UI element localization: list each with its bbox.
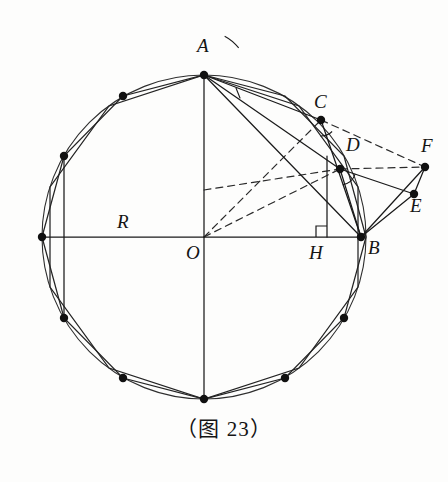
dashed-OF-extension (204, 169, 340, 190)
vertex-dot-vertex-top-A (200, 71, 208, 79)
point-label-C: C (314, 92, 327, 111)
point-label-H: H (309, 243, 323, 262)
vertex-dot-vertex-D (336, 165, 344, 173)
vertex-dot-vertex-left-W (38, 233, 46, 241)
dashed-DF (340, 167, 425, 169)
dashed-construction-lines (204, 120, 425, 237)
point-label-A: A (197, 36, 209, 55)
point-label-B: B (368, 238, 380, 257)
right-angle-marker (316, 226, 327, 237)
figure-caption: （图 23） (0, 412, 448, 442)
vertex-dot-vertex-upper-left-2 (60, 152, 68, 160)
segment-BE (361, 194, 414, 237)
vertex-dot-vertex-lower-right-2 (281, 374, 289, 382)
angle-tick-at-A (236, 88, 240, 98)
point-label-D: D (346, 135, 360, 154)
chord-AC (204, 75, 321, 120)
right-angle-at-H (316, 226, 327, 237)
point-label-E: E (410, 196, 422, 215)
vertex-dot-vertex-bottom-S (200, 395, 208, 403)
vertex-dot-vertex-upper-left-1 (119, 92, 127, 100)
point-label-O: O (186, 243, 200, 262)
vertex-dot-vertex-F (421, 163, 429, 171)
geometry-diagram (0, 0, 448, 482)
angle-arc-at-A (225, 36, 239, 48)
dashed-OD (204, 169, 340, 237)
vertex-dot-vertex-right-B (357, 233, 365, 241)
figure-container: A C D F E B H O R （图 23） (0, 0, 448, 482)
vertex-dot-vertex-lower-right-1 (340, 314, 348, 322)
point-label-F: F (421, 136, 433, 155)
vertex-dot-vertex-C (317, 116, 325, 124)
vertex-dot-vertex-lower-left-2 (119, 374, 127, 382)
segment-EF (414, 167, 425, 194)
radius-label-R: R (117, 212, 129, 231)
vertex-dot-vertex-lower-left-1 (60, 314, 68, 322)
chord-AB (204, 75, 361, 237)
